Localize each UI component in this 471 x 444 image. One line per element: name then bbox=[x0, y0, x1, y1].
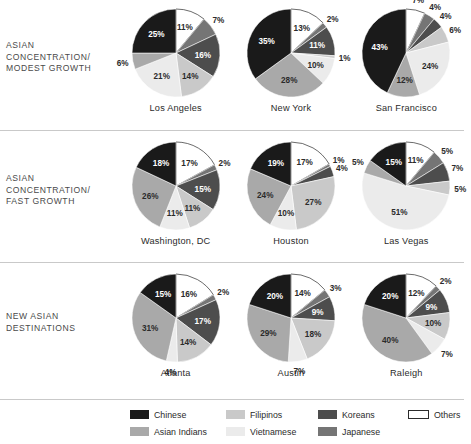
chart-row-3: NEW ASIANDESTINATIONS16%2%17%14%4%31%15%… bbox=[0, 263, 464, 399]
slice-value-label: 4% bbox=[336, 164, 348, 173]
pie-caption: San Francisco bbox=[376, 103, 437, 113]
pie-wrap: 17%1%4%27%10%24%19% bbox=[246, 141, 336, 231]
legend-label: Japanese bbox=[342, 427, 380, 437]
pie-cell-new-york: 13%2%11%1%10%28%35%New York bbox=[235, 8, 347, 113]
pie-svg bbox=[361, 273, 451, 363]
pie-cell-atlanta: 16%2%17%14%4%31%15%Atlanta bbox=[120, 273, 232, 378]
pie-wrap: 14%3%9%18%7%29%20% bbox=[246, 273, 336, 363]
pie-wrap: 11%5%7%5%51%5%15% bbox=[361, 141, 451, 231]
pie-wrap: 7%4%4%6%24%12%43% bbox=[361, 8, 451, 98]
pie-caption: New York bbox=[271, 103, 311, 113]
pie-caption: Austin bbox=[278, 368, 305, 378]
row-label-line: ASIAN bbox=[6, 40, 118, 52]
chart-rows: ASIANCONCENTRATION/MODEST GROWTH11%7%16%… bbox=[0, 0, 464, 400]
legend-swatch-koreans-icon bbox=[318, 410, 337, 419]
legend-item-koreans[interactable]: Koreans bbox=[318, 410, 408, 420]
row-label-line: CONCENTRATION/ bbox=[6, 52, 118, 64]
chart-row-1: ASIANCONCENTRATION/MODEST GROWTH11%7%16%… bbox=[0, 0, 464, 130]
legend-label: Koreans bbox=[342, 410, 375, 420]
pie-cell-raleigh: 12%2%9%10%7%40%20%Raleigh bbox=[350, 273, 462, 378]
pie-slice-chinese bbox=[132, 9, 176, 53]
legend-item-chinese[interactable]: Chinese bbox=[130, 410, 226, 420]
row-label-line: CONCENTRATION/ bbox=[6, 185, 118, 197]
pie-wrap: 13%2%11%1%10%28%35% bbox=[246, 8, 336, 98]
row-label-line: NEW ASIAN bbox=[6, 311, 118, 323]
pie-cell-austin: 14%3%9%18%7%29%20%Austin bbox=[235, 273, 347, 378]
legend-label: Asian Indians bbox=[154, 427, 207, 437]
pie-slice-filipinos bbox=[291, 177, 335, 230]
legend-item-others[interactable]: Others bbox=[408, 410, 471, 420]
row-label-line: DESTINATIONS bbox=[6, 323, 118, 335]
legend-grid: ChineseFilipinosKoreansOthersAsian India… bbox=[130, 406, 464, 440]
slice-value-label: 5% bbox=[454, 184, 466, 193]
pie-group: 16%2%17%14%4%31%15%Atlanta14%3%9%18%7%29… bbox=[118, 273, 464, 378]
legend-swatch-japanese-icon bbox=[318, 427, 337, 436]
legend-label: Chinese bbox=[154, 410, 186, 420]
pie-svg bbox=[246, 8, 336, 98]
pie-svg bbox=[246, 141, 336, 231]
pie-wrap: 12%2%9%10%7%40%20% bbox=[361, 273, 451, 363]
pie-caption: Atlanta bbox=[161, 368, 191, 378]
row-category-label: ASIANCONCENTRATION/MODEST GROWTH bbox=[0, 8, 118, 75]
legend-swatch-chinese-icon bbox=[130, 410, 149, 419]
pie-wrap: 11%7%16%14%21%6%25% bbox=[131, 8, 221, 98]
pie-svg bbox=[131, 141, 221, 231]
pie-caption: Las Vegas bbox=[384, 236, 429, 246]
pie-caption: Los Angeles bbox=[150, 103, 202, 113]
pie-cell-los-angeles: 11%7%16%14%21%6%25%Los Angeles bbox=[120, 8, 232, 113]
pie-svg bbox=[131, 8, 221, 98]
pie-cell-houston: 17%1%4%27%10%24%19%Houston bbox=[235, 141, 347, 246]
pie-cell-san-francisco: 7%4%4%6%24%12%43%San Francisco bbox=[350, 8, 462, 113]
chart-legend: ChineseFilipinosKoreansOthersAsian India… bbox=[0, 406, 464, 440]
row-label-line: FAST GROWTH bbox=[6, 196, 118, 208]
row-label-line: MODEST GROWTH bbox=[6, 63, 118, 75]
pie-caption: Raleigh bbox=[390, 368, 423, 378]
legend-swatch-filipinos-icon bbox=[226, 410, 245, 419]
pie-cell-las-vegas: 11%5%7%5%51%5%15%Las Vegas bbox=[350, 141, 462, 246]
slice-value-label: 7% bbox=[412, 0, 424, 5]
pie-caption: Washington, DC bbox=[141, 236, 210, 246]
legend-swatch-vietnamese-icon bbox=[226, 427, 245, 436]
pie-group: 11%7%16%14%21%6%25%Los Angeles13%2%11%1%… bbox=[118, 8, 464, 113]
pie-cell-washington-dc: 17%2%15%11%11%26%18%Washington, DC bbox=[120, 141, 232, 246]
slice-value-label: 7% bbox=[451, 164, 463, 173]
pie-svg bbox=[246, 273, 336, 363]
row-category-label: NEW ASIANDESTINATIONS bbox=[0, 273, 118, 334]
pie-wrap: 16%2%17%14%4%31%15% bbox=[131, 273, 221, 363]
legend-swatch-asian-indians-icon bbox=[130, 427, 149, 436]
pie-group: 17%2%15%11%11%26%18%Washington, DC17%1%4… bbox=[118, 141, 464, 246]
chart-row-2: ASIANCONCENTRATION/FAST GROWTH17%2%15%11… bbox=[0, 131, 464, 262]
pie-caption: Houston bbox=[273, 236, 309, 246]
pie-wrap: 17%2%15%11%11%26%18% bbox=[131, 141, 221, 231]
legend-item-filipinos[interactable]: Filipinos bbox=[226, 410, 318, 420]
legend-item-japanese[interactable]: Japanese bbox=[318, 427, 408, 437]
legend-item-asian-indians[interactable]: Asian Indians bbox=[130, 427, 226, 437]
row-divider bbox=[0, 399, 464, 400]
row-category-label: ASIANCONCENTRATION/FAST GROWTH bbox=[0, 141, 118, 208]
row-label-line: ASIAN bbox=[6, 173, 118, 185]
slice-value-label: 1% bbox=[339, 54, 351, 63]
slice-value-label: 6% bbox=[117, 59, 129, 68]
pie-svg bbox=[361, 8, 451, 98]
legend-item-vietnamese[interactable]: Vietnamese bbox=[226, 427, 318, 437]
pie-svg bbox=[131, 273, 221, 363]
legend-swatch-others-icon bbox=[408, 410, 429, 419]
pie-svg bbox=[361, 141, 451, 231]
legend-label: Others bbox=[434, 410, 460, 420]
legend-label: Vietnamese bbox=[250, 427, 296, 437]
legend-label: Filipinos bbox=[250, 410, 282, 420]
